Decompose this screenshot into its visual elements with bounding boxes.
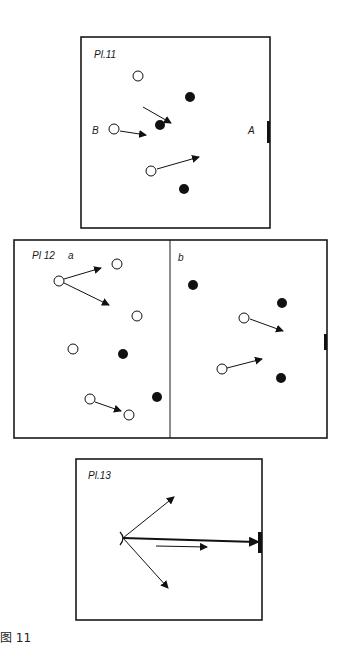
panel-a-label: a [68,250,74,261]
point-label-a: A [247,125,255,136]
plate-12-arrows [64,268,283,411]
plate-13-label: Pl.13 [88,470,111,481]
panel-b-label: b [178,252,184,263]
plate-11-open-circles [109,71,156,176]
plate-13-arrows [123,497,259,588]
goal-a-marker [267,121,270,143]
plate-11-label: Pl.11 [94,49,116,60]
plate-12-open-circles [54,259,249,420]
point-label-b: B [92,125,99,136]
plate-12-filled-circles [118,280,287,402]
origin-marker [120,532,123,545]
plate-11-arrows [120,107,199,169]
plate-12: Pl 12 a b [14,240,327,438]
plate-12-label: Pl 12 [32,250,55,261]
figure-caption: 图 11 [0,628,31,645]
goal-marker [324,334,327,350]
plate-11: Pl.11 B A [81,37,270,228]
plate-11-frame [81,37,270,228]
plate-11-filled-circles [155,92,195,194]
plate-13: Pl.13 [76,459,262,620]
